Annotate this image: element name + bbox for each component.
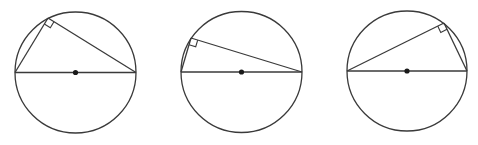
triangle-side-right [48, 18, 136, 73]
center-point [73, 70, 78, 75]
triangle-side-left [347, 23, 444, 71]
figure-1 [15, 12, 136, 133]
diagram-canvas [0, 0, 478, 145]
center-point [404, 68, 409, 73]
figure-3 [347, 11, 467, 131]
center-point [239, 69, 244, 74]
triangle-side-left [15, 18, 48, 73]
triangle-side-right [191, 38, 302, 72]
triangle-side-left [181, 38, 191, 72]
triangle-side-right [444, 23, 467, 71]
figure-2 [181, 12, 302, 133]
